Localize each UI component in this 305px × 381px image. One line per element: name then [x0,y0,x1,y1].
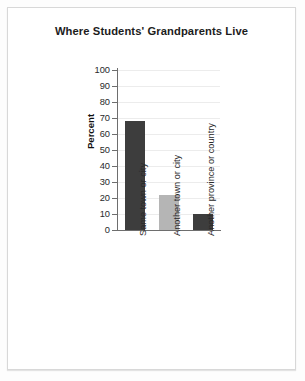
y-axis-tick [112,166,117,167]
y-axis-tick-label: 10 [84,210,110,219]
gridline [118,70,220,71]
figure-page: Where Students' Grandparents Live Percen… [0,0,305,381]
y-axis-tick [112,198,117,199]
y-axis-tick-label: 50 [84,146,110,155]
figure-frame: Where Students' Grandparents Live Percen… [7,7,296,370]
x-axis-tick-label: Another town or city [173,155,182,236]
y-axis-tick-label: 30 [84,178,110,187]
chart-title: Where Students' Grandparents Live [8,25,295,37]
gridline [118,118,220,119]
y-axis-tick-label: 0 [84,226,110,235]
y-axis-tick [112,230,117,231]
gridline [118,86,220,87]
y-axis-tick-label: 40 [84,162,110,171]
plot-area [118,70,220,230]
y-axis-tick-label: 70 [84,114,110,123]
y-axis-tick-label: 90 [84,82,110,91]
gridline [118,102,220,103]
y-axis-tick-label: 20 [84,194,110,203]
y-axis-tick [112,86,117,87]
y-axis-tick [112,150,117,151]
y-axis-tick [112,182,117,183]
x-axis-tick-label: Same town or city [139,163,148,236]
y-axis-tick [112,102,117,103]
y-axis-tick-label: 80 [84,98,110,107]
x-axis-tick-label: Another province or country [207,123,216,236]
gridline [118,230,220,231]
y-axis-tick [112,134,117,135]
y-axis-tick [112,214,117,215]
y-axis-tick [112,118,117,119]
y-axis-tick [112,70,117,71]
y-axis-tick-label: 100 [84,66,110,75]
y-axis-tick-label: 60 [84,130,110,139]
y-axis-tick-labels: 0102030405060708090100 [82,8,110,381]
